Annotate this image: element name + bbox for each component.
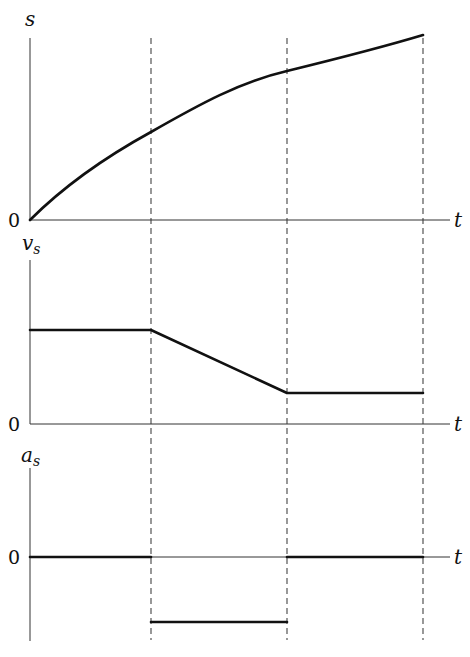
t-label-3: t xyxy=(454,545,463,569)
origin-label-1: 0 xyxy=(8,209,20,231)
a-axis-label: as xyxy=(21,443,40,469)
v-axis-label: vs xyxy=(22,231,41,257)
origin-label-3: 0 xyxy=(8,546,20,568)
velocity-curve xyxy=(30,330,423,393)
acceleration-plot: as 0 t xyxy=(8,443,463,641)
motion-diagram: s 0 t vs 0 t as 0 t xyxy=(0,0,470,657)
s-axis-label: s xyxy=(25,7,35,31)
t-label-1: t xyxy=(454,208,463,232)
position-curve xyxy=(30,35,423,220)
origin-label-2: 0 xyxy=(8,413,20,435)
t-label-2: t xyxy=(454,412,463,436)
position-plot: s 0 t xyxy=(8,7,463,232)
velocity-plot: vs 0 t xyxy=(8,231,463,436)
